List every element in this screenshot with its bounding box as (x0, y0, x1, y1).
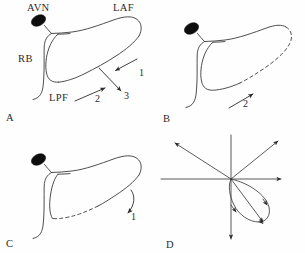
vector-arrow-2 (229, 94, 253, 108)
distal-loop-path (98, 175, 139, 206)
vector-label-3: 3 (124, 90, 129, 101)
vector-label-2: 2 (95, 93, 100, 104)
label-lpf: LPF (49, 92, 68, 103)
axis-diagonal-upright (231, 141, 278, 179)
label-laf: LAF (113, 2, 134, 13)
panel-letter-d: D (166, 239, 174, 250)
vector-arrow-1 (128, 190, 134, 213)
blocked-segment-dashed (240, 27, 292, 83)
vector-loop-inner (229, 179, 259, 222)
label-rb: RB (18, 53, 33, 64)
septal-connector-path (58, 34, 70, 35)
blocked-segment-dashed (53, 206, 99, 219)
vector-arrow-1 (116, 59, 138, 71)
panel-letter-b: B (163, 113, 170, 124)
label-avn: AVN (27, 2, 50, 13)
vector-label-1: 1 (131, 211, 136, 222)
axis-diagonal-upleft (175, 143, 231, 179)
resultant-vector (231, 179, 263, 222)
right-bundle-path (33, 173, 52, 239)
common-bundle-path (198, 34, 205, 42)
septal-connector-path (213, 42, 225, 43)
vector-label-1: 1 (139, 67, 144, 78)
distal-loop-path (59, 36, 140, 82)
loop-arrowhead-left (231, 205, 236, 212)
vector-label-2: 2 (243, 98, 248, 109)
septal-connector-path (58, 174, 70, 175)
figure-root: AVN LAF RB LPF 1 2 3 A 2 B (0, 0, 305, 253)
right-bundle-path (33, 34, 52, 100)
laf-path (205, 25, 287, 41)
panel-b: 2 B (153, 0, 305, 126)
vector-arrow-2 (75, 88, 105, 101)
laf-path (52, 156, 142, 175)
common-bundle-path (45, 26, 52, 34)
laf-path (52, 17, 142, 36)
panel-c: 1 C (0, 127, 152, 253)
common-bundle-path (45, 165, 52, 173)
loop-arrowhead-right (263, 199, 267, 205)
vector-arrow-3 (99, 68, 121, 91)
panel-d: D (153, 127, 305, 253)
panel-letter-c: C (6, 238, 13, 249)
panel-a: AVN LAF RB LPF 1 2 3 A (0, 0, 152, 126)
panel-letter-a: A (6, 112, 14, 123)
lpf-path (201, 42, 240, 90)
septal-limb-path (50, 174, 58, 218)
lpf-path (46, 34, 59, 82)
right-bundle-path (186, 42, 205, 108)
